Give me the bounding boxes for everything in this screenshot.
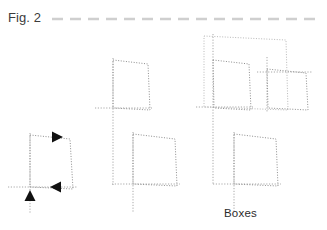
box-inner (213, 60, 251, 110)
figure-root: Fig. 2 (0, 0, 327, 230)
box-lower-middle (133, 134, 177, 186)
arrow-right-icon (52, 132, 63, 143)
box-bottom (234, 134, 278, 186)
figure-caption-boxes: Boxes (224, 207, 257, 219)
arrow-up-icon (25, 190, 36, 201)
figure-artwork (0, 0, 327, 230)
arrow-left-icon (50, 182, 61, 193)
box-upper-middle (113, 60, 150, 110)
stage-3-three-boxes (196, 34, 312, 212)
stage-1-single-box (8, 132, 78, 215)
box-lower-left (30, 135, 73, 189)
box-outer-large (204, 36, 288, 110)
stage-2-two-boxes (95, 58, 180, 212)
